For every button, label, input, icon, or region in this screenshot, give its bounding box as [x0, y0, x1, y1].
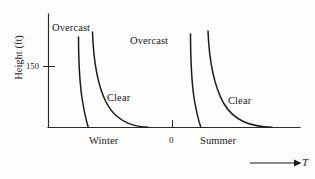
curve-label-overcast-winter: Overcast [52, 23, 90, 34]
y-tick-label-150: 150 [26, 62, 39, 71]
curve-label-overcast-summer: Overcast [130, 36, 168, 47]
curve-clear-summer [208, 31, 272, 127]
t-axis-arrow-head [294, 160, 302, 167]
curve-label-clear-summer: Clear [228, 96, 251, 107]
plot-canvas [0, 0, 315, 179]
curve-label-clear-winter: Clear [107, 93, 130, 104]
curve-overcast-summer [191, 34, 201, 127]
x-axis-label-t: T [302, 157, 308, 168]
x-tick-label-zero: 0 [169, 136, 174, 145]
y-axis-label: Height (ft) [13, 26, 24, 90]
x-group-label-winter: Winter [89, 136, 118, 147]
figure-container: Height (ft) 150 Overcast Clear Overcast … [0, 0, 315, 179]
curve-overcast-winter [79, 37, 89, 127]
x-group-label-summer: Summer [200, 136, 236, 147]
